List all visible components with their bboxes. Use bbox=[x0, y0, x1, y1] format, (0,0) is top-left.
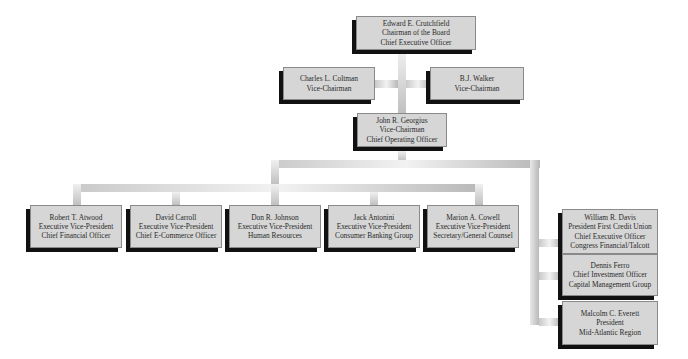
node-title: Mid-Atlantic Region bbox=[579, 328, 641, 337]
node-title: Chief Investment Officer bbox=[573, 270, 647, 279]
node-title: Chief Executive Officer bbox=[575, 232, 646, 241]
connector-upper-left-drop bbox=[271, 160, 279, 184]
node-title: Executive Vice-President bbox=[139, 222, 214, 231]
connector-ceo-trunk bbox=[398, 50, 406, 113]
node-name: Dennis Ferro bbox=[591, 261, 630, 270]
node-name: John R. Georgius bbox=[376, 116, 427, 125]
node-walker: B.J. Walker Vice-Chairman bbox=[430, 67, 524, 100]
node-title: Chief Executive Officer bbox=[381, 38, 452, 47]
node-name: B.J. Walker bbox=[460, 74, 494, 83]
connector-walker bbox=[406, 80, 430, 88]
connector-drop-cowell bbox=[475, 184, 483, 205]
connector-coltman bbox=[375, 80, 398, 88]
node-title: Consumer Banking Group bbox=[335, 231, 413, 240]
node-title: Human Resources bbox=[248, 231, 302, 240]
node-johnson: Don R. Johnson Executive Vice-President … bbox=[229, 205, 321, 248]
node-title: Chairman of the Board bbox=[382, 28, 450, 37]
node-crutchfield: Edward E. Crutchfield Chairman of the Bo… bbox=[356, 16, 476, 50]
node-title: Congress Financial/Talcott bbox=[570, 241, 649, 250]
node-name: William R. Davis bbox=[584, 213, 636, 222]
connector-right-trunk bbox=[530, 160, 539, 325]
connector-drop-antonini bbox=[370, 192, 378, 205]
node-title: Executive Vice-President bbox=[39, 222, 114, 231]
node-title: President bbox=[596, 318, 624, 327]
node-title: Executive Vice-President bbox=[337, 222, 412, 231]
node-title: Vice-Chairman bbox=[454, 84, 499, 93]
node-title: Vice-Chairman bbox=[306, 84, 351, 93]
node-everett: Malcolm C. Everett President Mid-Atlanti… bbox=[562, 301, 658, 345]
connector-ferro bbox=[539, 272, 560, 280]
node-coltman: Charles L. Coltman Vice-Chairman bbox=[283, 67, 375, 100]
node-title: Chief Financial Officer bbox=[42, 231, 111, 240]
node-atwood: Robert T. Atwood Executive Vice-Presiden… bbox=[30, 205, 122, 248]
connector-davis bbox=[539, 239, 560, 247]
node-davis: William R. Davis President First Credit … bbox=[562, 209, 658, 254]
node-carroll: David Carroll Executive Vice-President C… bbox=[130, 205, 222, 248]
node-title: Secretary/General Counsel bbox=[433, 231, 512, 240]
node-name: Malcolm C. Everett bbox=[581, 309, 640, 318]
node-title: Chief E-Commerce Officer bbox=[136, 231, 217, 240]
node-title: Capital Management Group bbox=[569, 280, 652, 289]
node-title: President First Credit Union bbox=[568, 222, 652, 231]
node-name: Edward E. Crutchfield bbox=[383, 19, 450, 28]
node-name: Marion A. Cowell bbox=[446, 213, 500, 222]
connector-everett bbox=[539, 318, 560, 326]
connector-upper-bar bbox=[271, 160, 540, 168]
connector-drop-atwood bbox=[73, 184, 81, 205]
node-georgius: John R. Georgius Vice-Chairman Chief Ope… bbox=[357, 113, 447, 147]
node-name: David Carroll bbox=[156, 213, 197, 222]
node-title: Vice-Chairman bbox=[379, 125, 424, 134]
node-name: Robert T. Atwood bbox=[50, 213, 103, 222]
node-title: Chief Operating Officer bbox=[367, 135, 438, 144]
connector-drop-carroll bbox=[172, 192, 180, 205]
node-antonini: Jack Antonini Executive Vice-President C… bbox=[328, 205, 420, 248]
node-name: Don R. Johnson bbox=[251, 213, 298, 222]
node-name: Jack Antonini bbox=[354, 213, 395, 222]
node-title: Executive Vice-President bbox=[238, 222, 313, 231]
node-cowell: Marion A. Cowell Executive Vice-Presiden… bbox=[427, 205, 519, 248]
connector-drop-johnson bbox=[271, 184, 279, 205]
node-name: Charles L. Coltman bbox=[300, 74, 358, 83]
node-title: Executive Vice-President bbox=[436, 222, 511, 231]
node-ferro: Dennis Ferro Chief Investment Officer Ca… bbox=[562, 254, 658, 296]
